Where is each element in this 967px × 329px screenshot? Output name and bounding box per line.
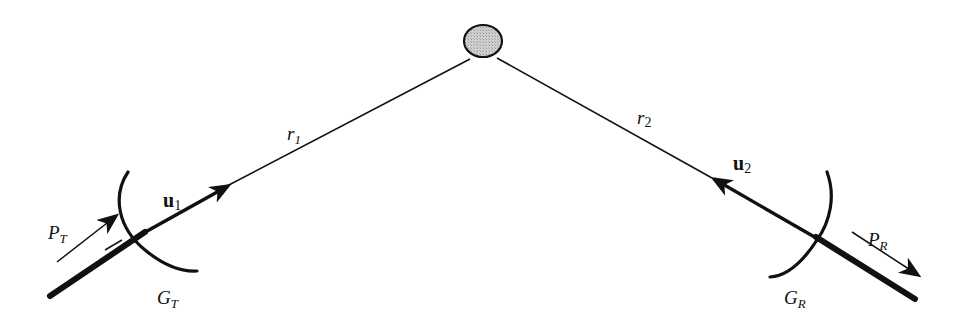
bistatic-diagram: r1 r2 u1 u2 PT GT PR GR: [0, 0, 967, 329]
label-r2: r2: [637, 107, 651, 130]
path-r2-line: [497, 58, 712, 178]
label-pr: PR: [867, 229, 888, 253]
label-gr: GR: [784, 287, 806, 311]
u2-arrow: [714, 179, 818, 239]
label-u1: u1: [163, 189, 181, 213]
path-r1-line: [225, 59, 470, 187]
label-pt: PT: [47, 222, 68, 246]
label-r1: r1: [287, 123, 301, 147]
transmitter-antenna-arc: [119, 172, 197, 271]
receiver-feed-line: [816, 237, 915, 299]
receiver-antenna-arc: [770, 172, 831, 277]
target-ellipse: [464, 25, 502, 57]
u1-arrow: [140, 186, 228, 235]
receiver-group: [714, 172, 918, 299]
transmitter-group: [50, 172, 228, 296]
label-gt: GT: [157, 287, 179, 311]
label-u2: u2: [733, 152, 751, 176]
